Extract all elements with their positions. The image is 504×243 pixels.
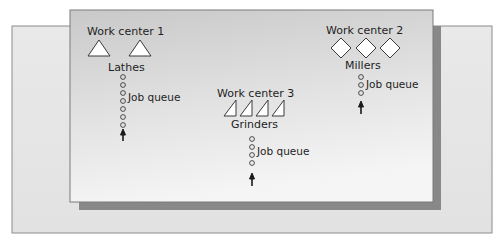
work-center-3-title: Work center 3 <box>217 87 294 100</box>
job-queue-3-label: Job queue <box>256 145 309 157</box>
work-center-2-machine-type: Millers <box>345 59 381 72</box>
work-center-3-machine-type: Grinders <box>231 118 278 131</box>
process-layout-diagram: Work center 1 Lathes Job queue Work cent… <box>0 0 504 243</box>
work-center-1-title: Work center 1 <box>87 25 164 38</box>
job-queue-1-label: Job queue <box>127 91 180 103</box>
job-queue-2-label: Job queue <box>365 78 418 90</box>
work-center-2-title: Work center 2 <box>326 24 403 37</box>
work-center-1-machine-type: Lathes <box>108 61 145 74</box>
